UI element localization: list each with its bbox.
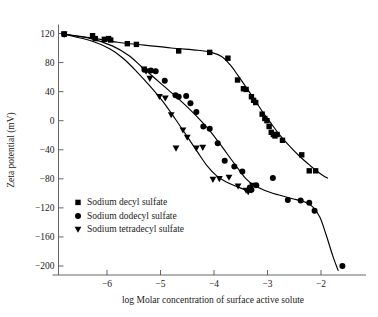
data-point-circle: [298, 198, 304, 204]
y-axis-title: Zeta potential (mV): [6, 112, 17, 187]
tick-labels: 12080400−40−80−120−160−200−6−5−4−3−2: [35, 29, 326, 289]
x-axis-title: log Molar concentration of surface activ…: [122, 295, 304, 305]
data-point-square: [313, 168, 318, 173]
data-point-circle: [306, 200, 312, 206]
legend-label: Sodium dodecyl sulfate: [87, 211, 177, 221]
y-tick-label: 40: [45, 87, 55, 97]
x-tick-label: −4: [209, 279, 219, 289]
data-point-circle: [270, 175, 276, 181]
data-point-square: [176, 48, 181, 53]
data-point-triangle-down: [180, 127, 187, 133]
data-point-square: [125, 41, 130, 46]
data-point-square: [134, 42, 139, 47]
data-point-circle: [162, 78, 168, 84]
data-point-circle: [239, 169, 245, 175]
x-tick-label: −5: [155, 279, 165, 289]
data-point-circle: [215, 140, 221, 146]
data-point-circle: [183, 93, 189, 99]
curve-circle: [64, 34, 338, 270]
data-point-square: [307, 168, 312, 173]
data-point-circle: [200, 124, 206, 130]
data-point-circle: [176, 94, 182, 100]
y-tick-label: −80: [40, 174, 55, 184]
data-point-circle: [339, 263, 345, 269]
data-point-circle: [193, 109, 199, 115]
data-point-triangle-down: [173, 146, 180, 152]
legend-marker-triangle-down: [75, 227, 82, 233]
data-point-circle: [187, 100, 193, 106]
data-point-circle: [231, 163, 237, 169]
y-tick-label: 80: [45, 58, 55, 68]
data-point-triangle-down: [226, 175, 233, 181]
y-tick-label: −120: [35, 203, 55, 213]
y-tick-label: −160: [35, 232, 55, 242]
data-point-triangle-down: [146, 76, 153, 82]
data-point-circle: [285, 197, 291, 203]
data-point-circle: [207, 126, 213, 132]
x-tick-label: −2: [316, 279, 326, 289]
data-point-square: [235, 77, 240, 82]
data-point-square: [108, 37, 113, 42]
legend-label: Sodium decyl sulfate: [87, 197, 167, 207]
data-point-square: [207, 50, 212, 55]
data-point-circle: [312, 208, 318, 214]
chart-canvas: 12080400−40−80−120−160−200−6−5−4−3−2 Sod…: [0, 0, 378, 317]
axes: [53, 25, 367, 276]
chart-legend: Sodium decyl sulfateSodium dodecyl sulfa…: [75, 197, 184, 234]
data-point-square: [280, 138, 285, 143]
data-point-square: [93, 36, 98, 41]
legend-marker-square: [75, 200, 80, 205]
data-point-square: [299, 152, 304, 157]
data-point-square: [266, 124, 271, 129]
data-point-triangle-down: [210, 177, 217, 183]
data-point-square: [225, 56, 230, 61]
y-tick-label: −40: [40, 145, 55, 155]
data-point-square: [264, 118, 269, 123]
y-tick-label: −200: [35, 261, 55, 271]
data-point-square: [253, 100, 258, 105]
data-point-circle: [222, 158, 228, 164]
x-tick-label: −6: [102, 279, 112, 289]
data-point-square: [274, 132, 279, 137]
fitted-curves: [64, 34, 338, 270]
zeta-potential-figure: 12080400−40−80−120−160−200−6−5−4−3−2 Sod…: [0, 0, 378, 317]
data-point-triangle-down: [199, 145, 206, 151]
data-point-circle: [153, 68, 159, 74]
y-tick-label: 120: [40, 29, 55, 39]
curve-square: [64, 34, 327, 178]
legend-label: Sodium tetradecyl sulfate: [87, 224, 184, 234]
y-tick-label: 0: [50, 116, 55, 126]
legend-marker-circle: [75, 213, 81, 219]
x-tick-label: −3: [262, 279, 272, 289]
data-point-triangle-down: [193, 146, 200, 152]
data-point-square: [243, 87, 248, 92]
